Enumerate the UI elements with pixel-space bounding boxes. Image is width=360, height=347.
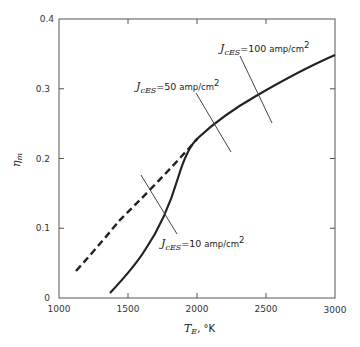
x-tick-1000: 1000 — [48, 304, 71, 314]
plot-frame — [59, 19, 335, 298]
annotation-j50: JcES=50amp/cm2 — [134, 78, 219, 95]
x-ticks-bottom — [128, 293, 266, 298]
y-axis-title: ηm — [10, 153, 24, 168]
x-ticks-top — [128, 19, 266, 24]
x-tick-1500: 1500 — [117, 304, 140, 314]
leader-line-j50 — [196, 93, 231, 152]
x-tick-2500: 2500 — [255, 304, 278, 314]
annotation-j10: JcES=10amp/cm2 — [159, 235, 244, 252]
x-tick-3000: 3000 — [324, 305, 347, 315]
x-axis-title: TE, °K — [184, 322, 216, 336]
y-tick-0: 0 — [44, 293, 50, 303]
y-ticks-left — [59, 89, 64, 229]
y-tick-labels: 0 0.1 0.2 0.3 0.4 — [36, 14, 55, 303]
y-tick-0.3: 0.3 — [36, 84, 50, 94]
y-ticks-right — [330, 89, 335, 229]
annotation-j100: JcES=100amp/cm2 — [218, 40, 309, 57]
svg-text:ηm: ηm — [10, 153, 24, 168]
efficiency-vs-temperature-chart: 0 0.1 0.2 0.3 0.4 1000 1500 2000 2500 30… — [0, 0, 360, 347]
x-tick-labels: 1000 1500 2000 2500 3000 — [48, 304, 347, 315]
y-tick-0.4: 0.4 — [40, 14, 55, 24]
x-tick-2000: 2000 — [186, 304, 209, 314]
y-tick-0.2: 0.2 — [36, 154, 50, 164]
solid-curve-upper — [198, 55, 335, 138]
y-tick-0.1: 0.1 — [36, 223, 50, 233]
